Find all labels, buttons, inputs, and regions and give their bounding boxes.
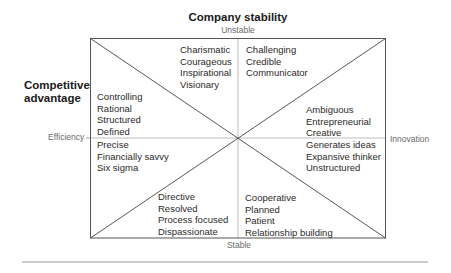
trait-item: Controlling bbox=[97, 91, 142, 103]
quadrant-right-upper: Ambiguous Entrepreneurial Creative bbox=[306, 104, 371, 139]
trait-item: Structured bbox=[97, 114, 142, 126]
trait-item: Defined bbox=[97, 126, 142, 138]
quadrant-left-lower: Precise Financially savvy Six sigma bbox=[97, 139, 169, 174]
trait-item: Resolved bbox=[158, 203, 228, 215]
quadrant-bottom-left: Directive Resolved Process focused Dispa… bbox=[158, 191, 228, 237]
trait-item: Charismatic bbox=[180, 44, 232, 56]
trait-item: Visionary bbox=[180, 79, 232, 91]
trait-item: Process focused bbox=[158, 214, 228, 226]
trait-item: Directive bbox=[158, 191, 228, 203]
axis-label-right: Innovation bbox=[390, 134, 429, 144]
quadrant-right-lower: Generates ideas Expansive thinker Unstru… bbox=[306, 139, 381, 174]
trait-item: Planned bbox=[245, 204, 333, 216]
trait-item: Unstructured bbox=[306, 162, 381, 174]
trait-item: Ambiguous bbox=[306, 104, 371, 116]
quadrant-bottom-right: Cooperative Planned Patient Relationship… bbox=[245, 192, 333, 238]
side-title-line1: Competitive bbox=[24, 79, 90, 92]
trait-item: Creative bbox=[306, 127, 371, 139]
trait-item: Patient bbox=[245, 215, 333, 227]
axis-label-left: Efficiency bbox=[48, 132, 84, 142]
side-title-line2: advantage bbox=[24, 92, 90, 105]
quadrant-left-upper: Controlling Rational Structured Defined bbox=[97, 91, 142, 137]
trait-item: Communicator bbox=[246, 67, 308, 79]
trait-item: Six sigma bbox=[97, 162, 169, 174]
trait-item: Cooperative bbox=[245, 192, 333, 204]
diagram-title: Company stability bbox=[0, 11, 451, 23]
axis-label-top: Unstable bbox=[0, 25, 451, 35]
trait-item: Entrepreneurial bbox=[306, 116, 371, 128]
trait-item: Expansive thinker bbox=[306, 151, 381, 163]
trait-item: Inspirational bbox=[180, 67, 232, 79]
quadrant-top-left: Charismatic Courageous Inspirational Vis… bbox=[180, 44, 232, 90]
trait-item: Generates ideas bbox=[306, 139, 381, 151]
axis-label-bottom: Stable bbox=[0, 240, 451, 250]
trait-item: Precise bbox=[97, 139, 169, 151]
trait-item: Dispassionate bbox=[158, 226, 228, 238]
quadrant-top-right: Challenging Credible Communicator bbox=[246, 44, 308, 79]
side-title: Competitive advantage bbox=[24, 79, 90, 105]
trait-item: Financially savvy bbox=[97, 151, 169, 163]
trait-item: Rational bbox=[97, 103, 142, 115]
trait-item: Credible bbox=[246, 56, 308, 68]
trait-item: Relationship building bbox=[245, 227, 333, 239]
trait-item: Challenging bbox=[246, 44, 308, 56]
trait-item: Courageous bbox=[180, 56, 232, 68]
